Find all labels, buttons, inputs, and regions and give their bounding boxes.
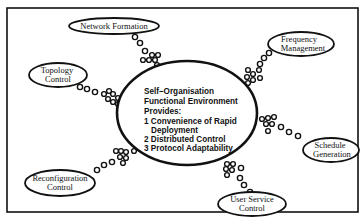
node-label-line-2: Control [47,182,74,192]
node-network-formation: Network Formation [69,18,159,34]
center-title-line-1: Self–Organisation [144,87,214,96]
center-title-line-2: Functional Environment [144,97,238,106]
center-item-1-line-2: Deployment [151,126,198,135]
node-label-line-2: Control [45,74,72,84]
node-topology-control: Topology Control [29,63,87,87]
node-reconfiguration-control: Reconfiguration Control [25,170,95,196]
center-item-3: 3 Protocol Adaptability [144,144,233,153]
center-title-line-3: Provides: [144,107,181,116]
node-label-line-2: Control [239,203,266,213]
connector-topology-control [77,84,120,106]
connector-user-service-control [224,162,253,195]
node-schedule-generation: Schedule Generation [303,138,359,162]
center-item-2: 2 Distributed Control [144,135,225,144]
center-node: Self–Organisation Functional Environment… [117,61,257,165]
center-item-1-line-1: 1 Convenience of Rapid [144,117,237,126]
node-frequency-management: Frequency Management [268,32,334,56]
connector-frequency-management [245,50,272,85]
node-label-line-2: Generation [313,149,352,159]
connector-network-formation [132,34,160,67]
connector-schedule-generation [260,115,301,139]
node-label-line-2: Management [281,43,326,53]
connector-reconfiguration-control [94,149,136,173]
diagram-canvas: Self–Organisation Functional Environment… [0,0,364,222]
node-label: Network Formation [80,21,148,31]
node-user-service-control: User Service Control [218,192,286,216]
